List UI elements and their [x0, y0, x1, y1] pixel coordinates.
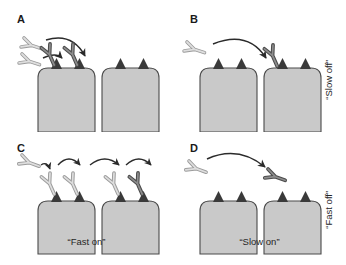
free-antibody: [21, 38, 43, 53]
receptor: [300, 191, 311, 202]
hop-arrow: [41, 164, 50, 169]
departing-antibody: [265, 169, 287, 185]
panel-b-graphic: [173, 0, 346, 132]
panel-b: B: [173, 0, 346, 132]
caption-fast-off: “Fast off”: [324, 180, 334, 240]
receptor: [138, 58, 149, 69]
panel-d: D: [173, 133, 346, 265]
hop-arrow: [90, 159, 119, 165]
caption-slow-on: “Slow on”: [173, 237, 346, 247]
free-antibody: [184, 42, 206, 57]
free-antibody: [19, 54, 41, 69]
receptor: [213, 58, 224, 69]
receptor: [236, 191, 247, 202]
caption-fast-on: “Fast on”: [0, 237, 173, 247]
cell-right: [264, 68, 321, 132]
panel-c: C: [0, 133, 173, 265]
dissociation-arrow: [207, 154, 265, 167]
receptor: [277, 58, 288, 69]
hop-arrow: [58, 159, 80, 165]
receptor: [213, 191, 224, 202]
receptor: [236, 58, 247, 69]
receptor: [277, 191, 288, 202]
cell-right: [102, 68, 159, 132]
caption-slow-off: “Slow off”: [324, 50, 334, 110]
antibody-kinetics-figure: A: [0, 0, 346, 265]
receptor: [115, 58, 126, 69]
free-antibody: [19, 155, 41, 171]
bound-antibody: [264, 45, 281, 68]
panel-a-graphic: [0, 0, 173, 132]
hop-arrow: [126, 159, 151, 165]
receptor: [300, 58, 311, 69]
cell-left: [200, 68, 257, 132]
panel-a: A: [0, 0, 173, 132]
free-antibody: [186, 161, 208, 177]
cell-left: [38, 68, 95, 132]
binding-arrow: [213, 39, 266, 58]
